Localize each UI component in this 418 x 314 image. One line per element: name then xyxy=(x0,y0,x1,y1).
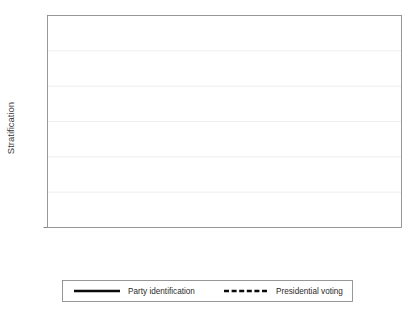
legend-label-party-identification: Party identification xyxy=(128,287,195,296)
chart-container: Stratification Party identification Pres… xyxy=(0,0,418,314)
legend-label-presidential-voting: Presidential voting xyxy=(276,287,343,296)
stratification-line-chart: Stratification Party identification Pres… xyxy=(0,0,418,314)
chart-legend: Party identification Presidential voting xyxy=(63,281,353,302)
y-axis-title: Stratification xyxy=(5,102,16,154)
